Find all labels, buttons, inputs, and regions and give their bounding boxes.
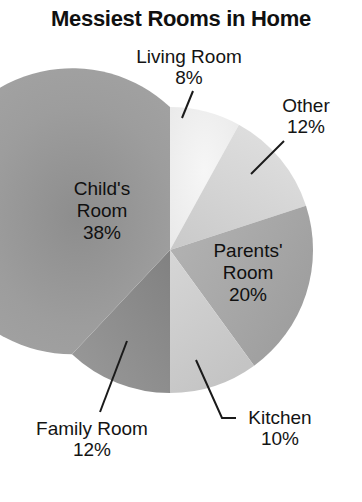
callout-family-room-percent: 12% (18, 439, 166, 460)
slice-label-parents-room-percent: 20% (196, 284, 300, 306)
slice-label-parents-room-line2: Room (196, 262, 300, 284)
slice-label-child-room-line1: Child's (44, 178, 160, 200)
slice-label-child-room-percent: 38% (44, 222, 160, 244)
slice-label-parents-room: Parents' Room 20% (196, 240, 300, 306)
callout-living-room-percent: 8% (124, 67, 254, 88)
callout-family-room: Family Room 12% (18, 418, 166, 460)
callout-other: Other 12% (258, 95, 354, 137)
slice-label-child-room: Child's Room 38% (44, 178, 160, 244)
callout-family-room-label: Family Room (18, 418, 166, 439)
callout-other-percent: 12% (258, 116, 354, 137)
callout-other-label: Other (258, 95, 354, 116)
slice-label-child-room-line2: Room (44, 200, 160, 222)
callout-living-room-label: Living Room (124, 46, 254, 67)
callout-kitchen: Kitchen 10% (228, 407, 332, 449)
callout-kitchen-percent: 10% (228, 428, 332, 449)
chart-page: Messiest Rooms in Home (0, 0, 362, 502)
callout-kitchen-label: Kitchen (228, 407, 332, 428)
callout-living-room: Living Room 8% (124, 46, 254, 88)
slice-label-parents-room-line1: Parents' (196, 240, 300, 262)
